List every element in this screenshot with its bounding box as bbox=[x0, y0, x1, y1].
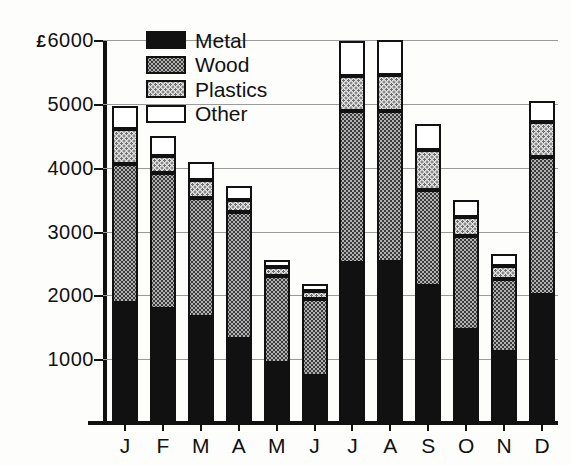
bar-june[interactable] bbox=[302, 40, 328, 423]
segment-metal-M2 bbox=[188, 317, 214, 423]
x-tick-D11 bbox=[541, 423, 543, 431]
segment-plastics-F1 bbox=[150, 156, 176, 174]
segment-wood-F1 bbox=[150, 173, 176, 308]
segment-wood-A3 bbox=[226, 212, 252, 338]
x-axis-label-may: M bbox=[268, 434, 286, 458]
legend-item-wood[interactable]: Wood bbox=[146, 53, 296, 78]
segment-wood-J6 bbox=[339, 111, 365, 262]
segment-other-O9 bbox=[453, 200, 479, 218]
segment-metal-S8 bbox=[415, 286, 441, 423]
stacked-bar-chart: 10002000300040005000£6000JFMAMJJASOND Me… bbox=[0, 0, 571, 466]
currency-symbol: £ bbox=[37, 32, 47, 51]
x-tick-A3 bbox=[238, 423, 240, 431]
segment-plastics-J0 bbox=[112, 129, 138, 164]
segment-plastics-D11 bbox=[529, 122, 555, 158]
legend-label-other: Other bbox=[195, 103, 248, 124]
bar-july[interactable] bbox=[339, 40, 365, 423]
x-tick-S8 bbox=[427, 423, 429, 431]
x-tick-M4 bbox=[276, 423, 278, 431]
bar-october[interactable] bbox=[453, 40, 479, 423]
y-axis-label-6000: £6000 bbox=[37, 29, 94, 52]
segment-plastics-A7 bbox=[377, 75, 403, 111]
legend-label-plastics: Plastics bbox=[195, 79, 267, 100]
legend-item-metal[interactable]: Metal bbox=[146, 28, 296, 53]
segment-plastics-M4 bbox=[264, 267, 290, 277]
legend-label-metal: Metal bbox=[195, 30, 246, 51]
x-tick-J0 bbox=[124, 423, 126, 431]
legend-swatch-other bbox=[146, 105, 186, 123]
segment-other-S8 bbox=[415, 124, 441, 150]
x-axis-label-october: O bbox=[458, 434, 474, 458]
x-tick-F1 bbox=[162, 423, 164, 431]
segment-wood-A7 bbox=[377, 111, 403, 262]
y-tick-3000 bbox=[94, 232, 103, 234]
y-tick-4000 bbox=[94, 168, 103, 170]
legend-swatch-plastics bbox=[146, 80, 186, 98]
segment-other-A3 bbox=[226, 186, 252, 200]
legend-label-wood: Wood bbox=[195, 54, 249, 75]
segment-plastics-A3 bbox=[226, 200, 252, 213]
segment-plastics-N10 bbox=[491, 266, 517, 279]
segment-metal-D11 bbox=[529, 295, 555, 423]
x-tick-N10 bbox=[503, 423, 505, 431]
bar-august[interactable] bbox=[377, 40, 403, 423]
segment-wood-S8 bbox=[415, 190, 441, 286]
x-axis-label-february: F bbox=[156, 434, 169, 458]
segment-metal-J0 bbox=[112, 303, 138, 423]
y-tick-5000 bbox=[94, 104, 103, 106]
y-tick-2000 bbox=[94, 295, 103, 297]
y-axis-label-3000: 3000 bbox=[48, 220, 95, 243]
y-tick-1000 bbox=[94, 359, 103, 361]
segment-metal-J5 bbox=[302, 376, 328, 423]
legend-swatch-wood bbox=[146, 56, 186, 74]
x-axis-label-september: S bbox=[421, 434, 435, 458]
y-axis-label-4000: 4000 bbox=[48, 156, 95, 179]
segment-plastics-J5 bbox=[302, 291, 328, 299]
segment-metal-N10 bbox=[491, 352, 517, 423]
segment-plastics-J6 bbox=[339, 76, 365, 112]
x-axis-label-december: D bbox=[534, 434, 549, 458]
segment-wood-N10 bbox=[491, 279, 517, 351]
segment-other-N10 bbox=[491, 254, 517, 266]
legend-swatch-metal bbox=[146, 31, 186, 49]
x-axis-label-august: A bbox=[383, 434, 397, 458]
segment-metal-F1 bbox=[150, 309, 176, 423]
x-tick-O9 bbox=[465, 423, 467, 431]
y-axis-label-5000: 5000 bbox=[48, 92, 95, 115]
x-tick-M2 bbox=[200, 423, 202, 431]
bar-september[interactable] bbox=[415, 40, 441, 423]
legend-item-plastics[interactable]: Plastics bbox=[146, 77, 296, 102]
x-axis-label-june: J bbox=[309, 434, 320, 458]
x-tick-J6 bbox=[351, 423, 353, 431]
segment-plastics-M2 bbox=[188, 180, 214, 199]
x-axis-label-march: M bbox=[192, 434, 210, 458]
segment-wood-J0 bbox=[112, 164, 138, 303]
legend-item-other[interactable]: Other bbox=[146, 102, 296, 127]
segment-wood-M2 bbox=[188, 198, 214, 317]
x-tick-A7 bbox=[389, 423, 391, 431]
segment-metal-A7 bbox=[377, 262, 403, 423]
segment-other-J0 bbox=[112, 106, 138, 129]
x-axis-label-january: J bbox=[120, 434, 131, 458]
segment-plastics-S8 bbox=[415, 150, 441, 190]
segment-metal-A3 bbox=[226, 339, 252, 423]
bar-january[interactable] bbox=[112, 40, 138, 423]
y-axis-label-2000: 2000 bbox=[48, 284, 95, 307]
x-axis-label-november: N bbox=[497, 434, 512, 458]
segment-metal-O9 bbox=[453, 330, 479, 423]
x-tick-J5 bbox=[314, 423, 316, 431]
segment-metal-M4 bbox=[264, 363, 290, 423]
bar-november[interactable] bbox=[491, 40, 517, 423]
x-axis-label-april: A bbox=[232, 434, 246, 458]
segment-other-F1 bbox=[150, 136, 176, 156]
segment-other-J5 bbox=[302, 284, 328, 291]
segment-wood-M4 bbox=[264, 276, 290, 363]
x-axis-label-july: J bbox=[347, 434, 358, 458]
y-tick-6000 bbox=[94, 40, 103, 42]
segment-wood-O9 bbox=[453, 236, 479, 330]
segment-wood-J5 bbox=[302, 299, 328, 376]
bar-december[interactable] bbox=[529, 40, 555, 423]
segment-metal-J6 bbox=[339, 263, 365, 423]
segment-other-J6 bbox=[339, 41, 365, 76]
segment-other-A7 bbox=[377, 40, 403, 75]
